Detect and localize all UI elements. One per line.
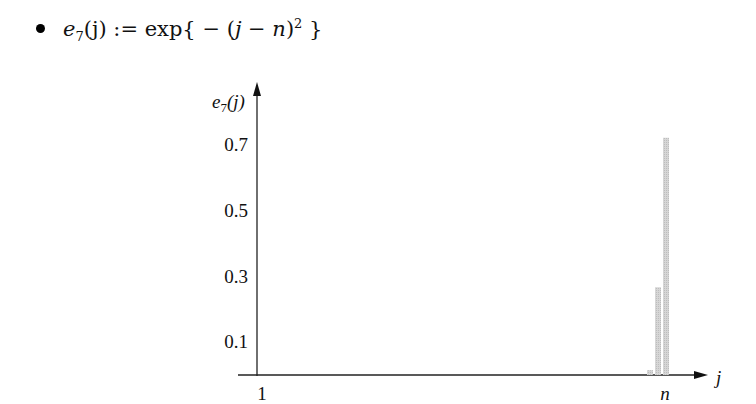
bar xyxy=(655,287,661,375)
x-axis-label: j xyxy=(713,367,721,388)
y-tick-label: 0.3 xyxy=(224,266,248,287)
y-tick-label: 0.7 xyxy=(224,134,248,155)
y-axis-label: e7(j) xyxy=(212,91,245,115)
y-tick-label: 0.5 xyxy=(224,200,248,221)
x-tick-label: 1 xyxy=(257,383,267,404)
y-tick-label: 0.1 xyxy=(224,331,248,352)
chart: e7(j) j 0.7 0.5 0.3 0.1 1 n xyxy=(0,0,756,404)
x-axis-arrow-icon xyxy=(694,371,708,379)
bar xyxy=(663,138,669,375)
x-tick-label: n xyxy=(660,383,670,404)
y-axis-arrow-icon xyxy=(253,82,261,96)
bar-series xyxy=(647,138,669,375)
bar xyxy=(647,370,653,375)
